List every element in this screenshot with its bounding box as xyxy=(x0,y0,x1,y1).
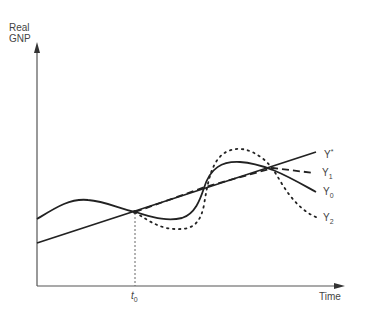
y-axis-label: Real GNP xyxy=(9,22,31,44)
y-axis-label-line1: Real xyxy=(9,22,31,33)
y-star-line xyxy=(37,152,316,243)
t0-label: t0 xyxy=(131,290,138,302)
y1-label: Y1 xyxy=(322,167,333,179)
y1-curve xyxy=(135,168,314,212)
y-axis-label-line2: GNP xyxy=(9,33,31,44)
y-star-label: Y* xyxy=(324,149,333,161)
y0-curve xyxy=(37,162,316,219)
x-axis-arrow-icon xyxy=(334,283,345,289)
x-axis-label: Time xyxy=(319,291,341,302)
y0-label: Y0 xyxy=(323,186,334,198)
chart-canvas xyxy=(0,0,367,314)
y2-label: Y2 xyxy=(323,212,334,224)
t0-intersection-point xyxy=(133,210,137,214)
y-axis-arrow-icon xyxy=(34,42,40,53)
